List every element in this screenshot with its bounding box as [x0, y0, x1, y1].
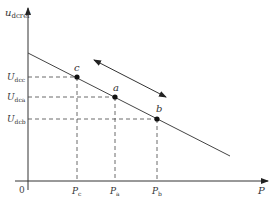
- x-tick-pa: Pa: [109, 186, 120, 197]
- y-tick-udcc: Udcc: [7, 72, 26, 83]
- point-b-label: b: [156, 103, 162, 114]
- point-a: [112, 94, 117, 99]
- guide-lines: [28, 77, 157, 181]
- x-tick-pb: Pb: [151, 186, 162, 197]
- y-tick-udcb: Udcb: [7, 114, 26, 125]
- x-tick-pc: Pc: [71, 186, 82, 197]
- point-b: [154, 116, 159, 121]
- x-axis-title: P: [257, 185, 265, 196]
- double-arrow: [94, 60, 166, 97]
- y-tick-udca: Udca: [7, 92, 26, 103]
- point-c: [74, 74, 79, 79]
- point-a-label: a: [113, 82, 119, 93]
- point-c-label: c: [74, 62, 80, 73]
- origin-label: 0: [19, 185, 25, 195]
- droop-line: [28, 53, 230, 156]
- droop-diagram: c a b udcref Udcc Udca Udcb 0 P Pc Pa Pb: [0, 0, 271, 208]
- y-axis-title: udcref: [5, 7, 31, 20]
